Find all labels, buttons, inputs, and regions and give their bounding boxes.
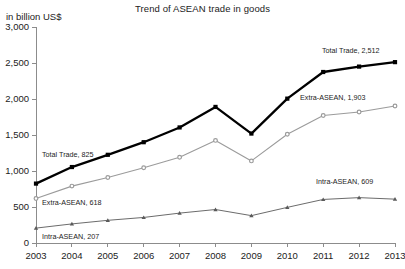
x-tick-label: 2011 — [313, 250, 333, 261]
x-tick-label: 2013 — [384, 250, 405, 261]
x-tick-label: 2009 — [241, 250, 262, 261]
data-point-marker — [142, 166, 146, 170]
x-tick-label: 2007 — [169, 250, 190, 261]
series-end-annotation: Intra-ASEAN, 609 — [316, 177, 373, 186]
y-axis: 05001,0001,5002,0002,5003,000 — [5, 21, 36, 248]
y-tick-label: 3,000 — [5, 21, 29, 32]
data-point-marker — [214, 139, 218, 143]
x-tick-label: 2003 — [25, 250, 46, 261]
series-start-annotation: Extra-ASEAN, 618 — [42, 198, 102, 207]
data-point-marker — [142, 140, 146, 144]
data-point-marker — [178, 155, 182, 159]
y-tick-label: 2,500 — [5, 57, 29, 68]
plot-area: 05001,0001,5002,0002,5003,000 2003200420… — [0, 0, 405, 269]
x-tick-label: 2008 — [205, 250, 226, 261]
data-point-marker — [34, 182, 38, 186]
y-tick-label: 1,500 — [5, 129, 29, 140]
series-end-annotation: Extra-ASEAN, 1,903 — [300, 93, 366, 102]
x-axis: 2003200420052006200720082009201020112012… — [25, 243, 405, 261]
x-tick-label: 2004 — [61, 250, 82, 261]
series-end-annotation: Total Trade, 2,512 — [322, 46, 380, 55]
data-point-marker — [70, 165, 74, 169]
data-point-marker — [106, 176, 110, 180]
data-point-marker — [70, 184, 74, 188]
y-tick-label: 1,000 — [5, 165, 29, 176]
data-point-marker — [357, 110, 361, 114]
data-point-marker — [250, 159, 254, 163]
data-point-marker — [357, 65, 361, 69]
data-point-marker — [213, 105, 217, 109]
data-point-marker — [321, 114, 325, 118]
y-tick-label: 2,000 — [5, 93, 29, 104]
series-start-annotation: Total Trade, 825 — [42, 150, 94, 159]
data-point-marker — [106, 153, 110, 157]
data-point-marker — [321, 70, 325, 74]
data-point-marker — [285, 97, 289, 101]
x-tick-label: 2012 — [349, 250, 370, 261]
annotation-layer: Total Trade, 825Total Trade, 2,512Extra-… — [42, 46, 380, 241]
series-line-total-trade — [36, 62, 395, 183]
data-point-marker — [393, 60, 397, 64]
data-point-marker — [34, 197, 38, 201]
y-tick-label: 500 — [13, 201, 29, 212]
x-tick-label: 2010 — [277, 250, 298, 261]
x-tick-label: 2005 — [97, 250, 118, 261]
data-point-marker — [285, 132, 289, 136]
data-point-marker — [393, 104, 397, 108]
x-tick-label: 2006 — [133, 250, 154, 261]
asean-trade-line-chart: Trend of ASEAN trade in goods in billion… — [0, 0, 405, 269]
y-tick-label: 0 — [24, 237, 29, 248]
series-start-annotation: Intra-ASEAN, 207 — [42, 232, 99, 241]
data-point-marker — [249, 131, 253, 135]
data-point-marker — [178, 125, 182, 129]
